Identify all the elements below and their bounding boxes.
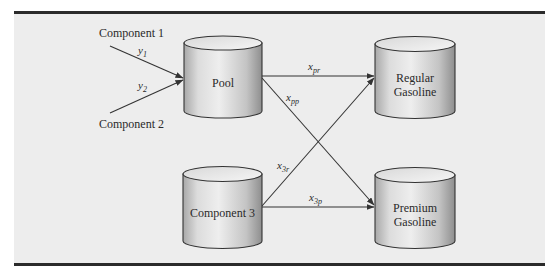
edge-label-x3p: x3p (308, 191, 322, 206)
component2-label: Component 2 (99, 117, 164, 131)
regular-gasoline-cylinder: Regular Gasoline (375, 37, 455, 119)
premium-label-line2: Gasoline (394, 215, 437, 229)
edge-label-y1: y1 (137, 44, 147, 59)
component3-label: Component 3 (190, 206, 255, 220)
premium-gasoline-cylinder: Premium Gasoline (375, 168, 455, 249)
edge-label-y2: y2 (137, 79, 147, 94)
edge-label-xpr: xpr (307, 60, 321, 75)
premium-label-line1: Premium (393, 201, 438, 215)
edge-label-x3r: x3r (276, 159, 290, 174)
edge-label-xpp: xpp (285, 91, 299, 106)
pooling-network-diagram: Pool Regular Gasoline Component 3 Premiu… (0, 0, 553, 274)
pool-cylinder: Pool (184, 36, 262, 118)
regular-label-line2: Gasoline (394, 85, 437, 99)
pool-label: Pool (212, 76, 235, 90)
component3-cylinder: Component 3 (183, 167, 262, 249)
regular-label-line1: Regular (396, 71, 434, 85)
component1-label: Component 1 (99, 26, 164, 40)
